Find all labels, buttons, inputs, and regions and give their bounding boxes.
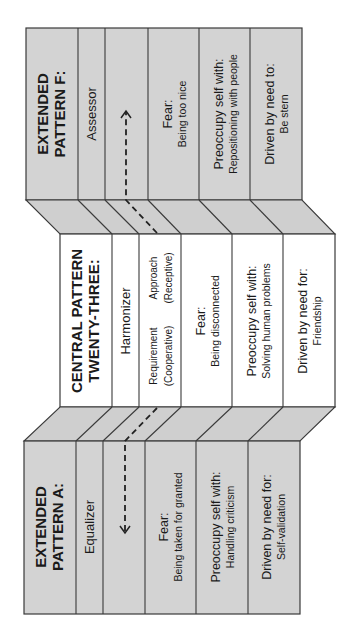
central-fear-label: Fear: — [194, 306, 208, 335]
extended-a-preoccupy-value: Handling criticism — [224, 486, 236, 569]
central-requirement-2: (Cooperative) — [163, 326, 174, 387]
pattern-diagram: EXTENDED PATTERN F: Assessor Fear: Being… — [0, 0, 355, 644]
extended-f-fear-value: Being too nice — [176, 81, 188, 148]
central-approach-2: (Receptive) — [163, 252, 174, 303]
central-title-1: CENTRAL PATTERN — [68, 249, 85, 393]
central-driven-label: Driven by need for: — [296, 268, 310, 374]
central-preoccupy-value: Solving human problems — [260, 263, 272, 379]
extended-f-driven-label: Driven by need to: — [263, 63, 277, 164]
extended-a-preoccupy-label: Preoccupy self with: — [209, 471, 223, 582]
extended-a-title-1: EXTENDED — [32, 486, 49, 568]
extended-f-preoccupy-value: Repositioning with people — [227, 54, 239, 174]
extended-a-driven-label: Driven by need for: — [260, 474, 274, 580]
central-approach-1: Approach — [148, 257, 159, 300]
central-fear-value: Being disconnected — [209, 275, 221, 367]
extended-f-title-1: EXTENDED — [34, 73, 51, 155]
extended-f-title-2: PATTERN F: — [51, 71, 68, 158]
extended-f-name: Assessor — [84, 87, 99, 141]
fold-top — [26, 200, 335, 234]
extended-a-fear-label: Fear: — [157, 512, 171, 541]
extended-a-name: Equalizer — [82, 499, 97, 554]
central-title-2: TWENTY-THREE: — [85, 259, 102, 382]
central-name: Harmonizer — [118, 287, 133, 355]
extended-a-title-2: PATTERN A: — [49, 483, 66, 571]
extended-f-fear-label: Fear: — [161, 99, 175, 128]
central-requirement-1: Requirement — [148, 327, 159, 384]
extended-f-preoccupy-label: Preoccupy self with: — [212, 58, 226, 169]
extended-f-driven-value: Be stern — [278, 94, 290, 133]
central-driven-value: Friendship — [311, 296, 323, 345]
extended-a-driven-value: Self-validation — [275, 494, 287, 560]
extended-a-fear-value: Being taken for granted — [172, 472, 184, 581]
fold-bottom — [24, 407, 335, 441]
central-preoccupy-label: Preoccupy self with: — [245, 265, 259, 376]
